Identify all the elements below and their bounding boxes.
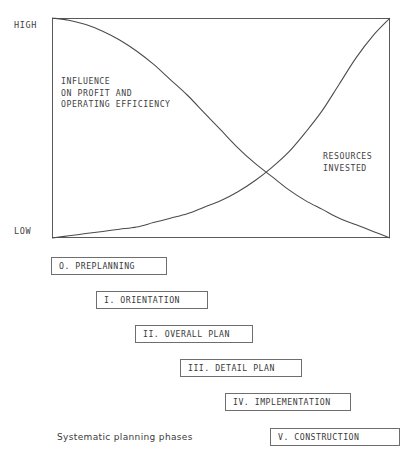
phase-box[interactable]: IV. IMPLEMENTATION [225, 393, 351, 411]
phase-label: III. DETAIL PLAN [181, 363, 275, 373]
resources-curve-annotation: RESOURCES INVESTED [323, 151, 372, 174]
y-axis-label-high: HIGH [14, 20, 37, 30]
phase-box[interactable]: O. PREPLANNING [51, 257, 167, 275]
resources-curve [52, 18, 390, 238]
phase-label: I. ORIENTATION [97, 295, 180, 305]
influence-annotation-line-2: ON PROFIT AND [61, 88, 171, 100]
resources-annotation-line-2: INVESTED [323, 163, 372, 175]
y-axis-label-low: LOW [14, 226, 31, 236]
phase-label: IV. IMPLEMENTATION [226, 397, 331, 407]
influence-annotation-line-3: OPERATING EFFICIENCY [61, 99, 171, 111]
chart-plot-svg [0, 0, 407, 250]
influence-resources-chart: HIGH LOW INFLUENCE ON PROFIT AND OPERATI… [0, 0, 407, 250]
influence-annotation-line-1: INFLUENCE [61, 76, 171, 88]
phase-label: V. CONSTRUCTION [271, 432, 359, 442]
phase-label: II. OVERALL PLAN [136, 329, 230, 339]
plot-frame [53, 19, 390, 238]
phase-box[interactable]: II. OVERALL PLAN [135, 325, 253, 343]
phase-box[interactable]: V. CONSTRUCTION [270, 428, 400, 446]
figure-root: HIGH LOW INFLUENCE ON PROFIT AND OPERATI… [0, 0, 407, 462]
figure-caption: Systematic planning phases [57, 432, 193, 442]
phase-label: O. PREPLANNING [52, 261, 135, 271]
phase-box[interactable]: III. DETAIL PLAN [180, 359, 302, 377]
resources-annotation-line-1: RESOURCES [323, 151, 372, 163]
influence-curve [52, 18, 390, 238]
phase-box[interactable]: I. ORIENTATION [96, 291, 208, 309]
influence-curve-annotation: INFLUENCE ON PROFIT AND OPERATING EFFICI… [61, 76, 171, 111]
